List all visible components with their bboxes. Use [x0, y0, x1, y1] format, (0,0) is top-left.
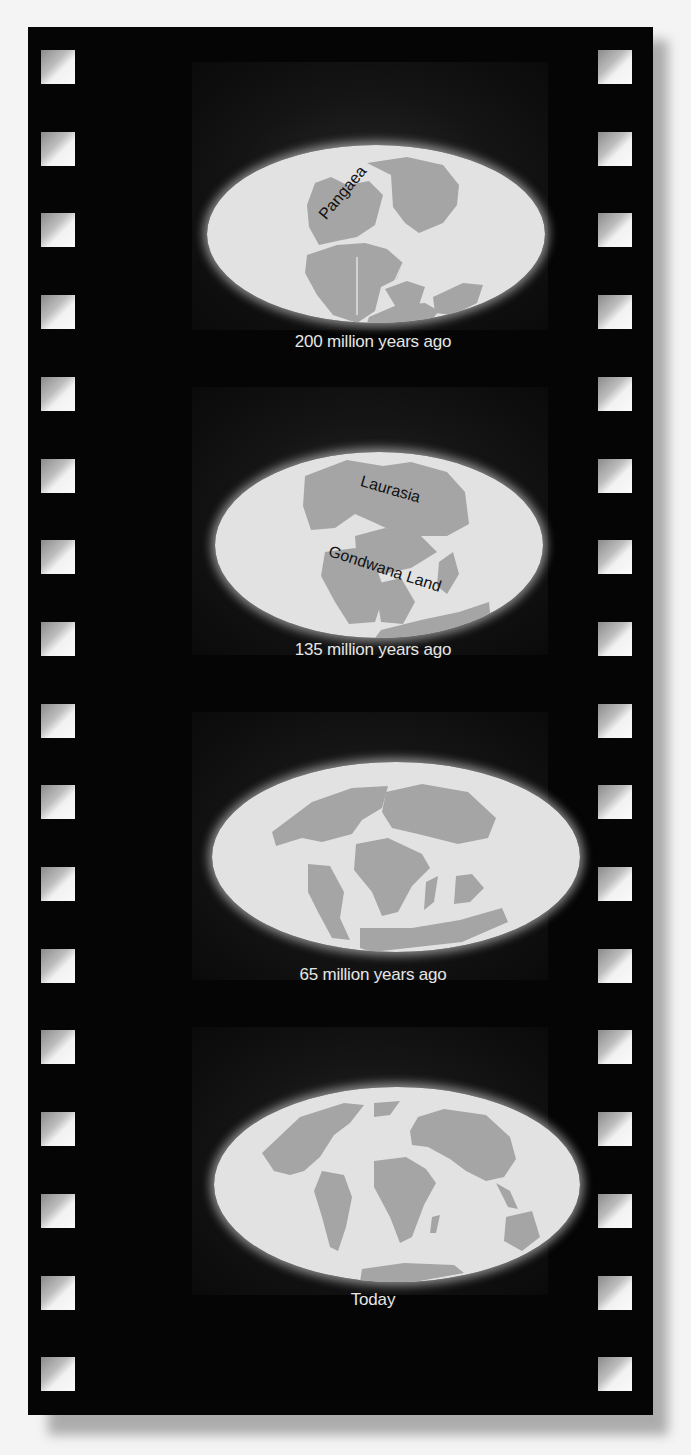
- sprocket-hole-left: [41, 540, 75, 574]
- globe-today-map: [214, 1087, 580, 1282]
- frame-200-mya: Pangaea 200 million years ago: [130, 47, 616, 347]
- sprocket-hole-right: [598, 1357, 632, 1391]
- sprocket-hole-left: [41, 785, 75, 819]
- landmass-icon: [214, 1087, 580, 1282]
- sprocket-hole-left: [41, 459, 75, 493]
- sprocket-hole-left: [41, 622, 75, 656]
- frame-caption: 135 million years ago: [130, 640, 616, 660]
- sprocket-hole-left: [41, 132, 75, 166]
- frame-today: Today: [130, 1012, 616, 1312]
- globe-laurasia-gondwana-map: Laurasia Gondwana Land: [215, 452, 543, 638]
- frame-65-mya: 65 million years ago: [130, 697, 616, 997]
- sprocket-hole-left: [41, 1112, 75, 1146]
- frame-caption: 200 million years ago: [130, 332, 616, 352]
- sprocket-hole-left: [41, 1357, 75, 1391]
- film-strip: Pangaea 200 million years ago Laurasia G…: [28, 27, 653, 1415]
- sprocket-hole-left: [41, 704, 75, 738]
- frame-135-mya: Laurasia Gondwana Land 135 million years…: [130, 372, 616, 672]
- sprocket-hole-left: [41, 1194, 75, 1228]
- frame-caption: Today: [130, 1290, 616, 1310]
- sprocket-hole-left: [41, 295, 75, 329]
- sprocket-hole-left: [41, 867, 75, 901]
- sprocket-hole-left: [41, 50, 75, 84]
- sprocket-hole-left: [41, 1276, 75, 1310]
- sprocket-hole-left: [41, 1030, 75, 1064]
- sprocket-hole-left: [41, 949, 75, 983]
- globe-65mya-map: [212, 762, 580, 952]
- globe-pangaea-map: Pangaea: [207, 145, 545, 323]
- sprocket-hole-left: [41, 213, 75, 247]
- sprocket-hole-left: [41, 377, 75, 411]
- landmass-icon: [212, 762, 580, 952]
- landmass-icon: [207, 145, 545, 323]
- frame-caption: 65 million years ago: [130, 965, 616, 985]
